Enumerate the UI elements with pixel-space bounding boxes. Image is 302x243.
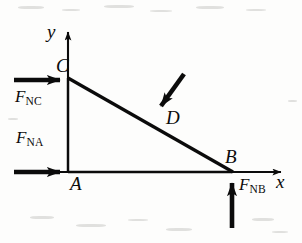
y-axis-label: y bbox=[47, 22, 55, 41]
triangle-hypotenuse-CB bbox=[68, 78, 233, 172]
free-body-diagram-figure: C A B D y x FNC FNA FNB bbox=[0, 0, 302, 243]
force-label-FNC: FNC bbox=[15, 88, 42, 108]
point-label-B: B bbox=[225, 147, 237, 166]
diagram-canvas bbox=[0, 0, 302, 243]
force-subscript-FNB: NB bbox=[249, 183, 265, 195]
force-symbol-FNC: F bbox=[15, 87, 25, 106]
force-subscript-FNA: NA bbox=[26, 136, 43, 148]
force-label-FNB: FNB bbox=[239, 176, 266, 196]
force-arrow-at-D bbox=[161, 74, 184, 106]
force-symbol-FNA: F bbox=[16, 128, 26, 147]
force-symbol-FNB: F bbox=[239, 175, 249, 194]
point-label-D: D bbox=[166, 108, 180, 127]
force-label-FNA: FNA bbox=[16, 129, 43, 149]
x-axis-label: x bbox=[276, 172, 284, 191]
point-label-A: A bbox=[70, 174, 82, 193]
point-label-C: C bbox=[56, 56, 69, 75]
force-subscript-FNC: NC bbox=[25, 95, 41, 107]
